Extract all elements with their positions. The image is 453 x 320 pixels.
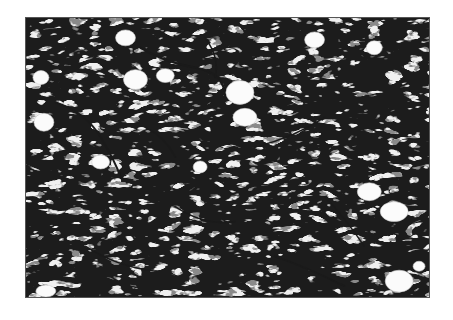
- micrograph-image: [25, 17, 430, 298]
- tissue-texture: [26, 18, 429, 297]
